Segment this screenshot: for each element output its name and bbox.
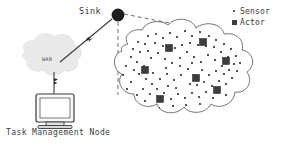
legend-item-actor: Actor <box>228 17 270 27</box>
task-management-node-label: Task Management Node <box>6 128 110 137</box>
actor-node <box>193 75 200 82</box>
legend-label-sensor: Sensor <box>240 7 270 16</box>
actor-node <box>166 45 173 52</box>
legend-item-sensor: Sensor <box>228 6 270 16</box>
sensor-dot-icon <box>228 10 240 12</box>
sink-node[interactable] <box>112 9 125 22</box>
legend-label-actor: Actor <box>240 18 265 27</box>
actor-node <box>214 87 221 94</box>
wan-cloud <box>22 34 81 76</box>
actor-node <box>142 67 149 74</box>
actor-node <box>223 58 230 65</box>
sensor-field-cloud <box>115 19 253 112</box>
wan-label: WAN <box>42 56 52 62</box>
actor-square-icon <box>228 20 240 25</box>
diagram-canvas: Sink WAN Task Management Node Sensor Act… <box>0 0 288 149</box>
wireless-bolt-icon <box>86 37 93 43</box>
sink-label: Sink <box>79 6 101 16</box>
actor-node <box>157 96 164 103</box>
actor-node <box>200 39 207 46</box>
task-management-node-icon[interactable] <box>36 94 74 129</box>
legend: Sensor Actor <box>228 6 270 28</box>
wireless-bolt-icon-2 <box>54 78 58 81</box>
